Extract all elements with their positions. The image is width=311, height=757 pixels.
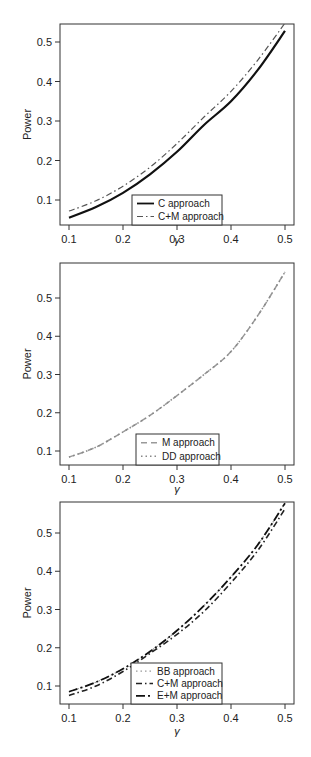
y-tick-label: 0.1: [37, 680, 52, 692]
y-tick-label: 0.4: [37, 76, 52, 88]
x-tick-label: 0.2: [115, 233, 130, 245]
y-axis: 0.10.20.30.40.5: [37, 36, 60, 206]
y-axis-label: Power: [21, 348, 33, 380]
y-tick-label: 0.2: [37, 642, 52, 654]
y-tick-label: 0.4: [37, 330, 52, 342]
chart-panel-1: 0.10.20.30.40.50.10.20.30.40.5γPowerC ap…: [0, 0, 311, 255]
y-tick-label: 0.5: [37, 292, 52, 304]
x-tick-label: 0.4: [223, 233, 238, 245]
power-chart-m-vs-dd: 0.10.20.30.40.50.10.20.30.40.5γPowerM ap…: [0, 255, 311, 500]
legend-entry: C approach: [158, 198, 210, 209]
x-axis: 0.10.20.30.40.5: [61, 704, 292, 724]
series-group: [69, 23, 285, 218]
legend: BB approachC+M approachE+M approach: [131, 663, 223, 704]
power-chart-c-vs-cm: 0.10.20.30.40.50.10.20.30.40.5γPowerC ap…: [0, 0, 311, 255]
legend-entry: C+M approach: [158, 211, 224, 222]
y-axis: 0.10.20.30.40.5: [37, 527, 60, 692]
y-tick-label: 0.4: [37, 565, 52, 577]
y-tick-label: 0.1: [37, 194, 52, 206]
x-tick-label: 0.1: [61, 233, 76, 245]
x-tick-label: 0.4: [223, 712, 238, 724]
y-tick-label: 0.2: [37, 155, 52, 167]
x-axis-label: γ: [174, 725, 181, 737]
x-tick-label: 0.5: [277, 712, 292, 724]
legend-entry: DD approach: [162, 451, 221, 462]
legend-entry: M approach: [162, 437, 215, 448]
power-chart-bb-cm-em: 0.10.20.30.40.50.10.20.30.40.5γPowerBB a…: [0, 500, 311, 757]
x-tick-label: 0.5: [277, 473, 292, 485]
y-axis-label: Power: [21, 587, 33, 619]
y-tick-label: 0.3: [37, 369, 52, 381]
y-tick-label: 0.1: [37, 445, 52, 457]
x-tick-label: 0.1: [61, 712, 76, 724]
x-tick-label: 0.3: [169, 712, 184, 724]
y-axis: 0.10.20.30.40.5: [37, 292, 60, 457]
y-axis-label: Power: [21, 109, 33, 141]
legend: C approachC+M approach: [132, 195, 224, 225]
series-line-c-approach: [69, 31, 285, 218]
x-axis: 0.10.20.30.40.5: [61, 465, 292, 485]
legend-entry: C+M approach: [157, 678, 223, 689]
legend: M approachDD approach: [136, 434, 221, 465]
series-line-dd-approach: [69, 272, 285, 457]
x-tick-label: 0.1: [61, 473, 76, 485]
x-tick-label: 0.2: [115, 473, 130, 485]
y-tick-label: 0.5: [37, 527, 52, 539]
y-tick-label: 0.3: [37, 604, 52, 616]
x-tick-label: 0.5: [277, 233, 292, 245]
series-group: [69, 272, 285, 457]
series-line-c-m-approach: [69, 23, 285, 211]
x-tick-label: 0.2: [115, 712, 130, 724]
chart-panel-2: 0.10.20.30.40.50.10.20.30.40.5γPowerM ap…: [0, 255, 311, 500]
y-tick-label: 0.2: [37, 407, 52, 419]
legend-entry: BB approach: [157, 666, 215, 677]
x-tick-label: 0.4: [223, 473, 238, 485]
series-line-m-approach: [69, 272, 285, 457]
y-tick-label: 0.3: [37, 115, 52, 127]
legend-entry: E+M approach: [157, 690, 222, 701]
y-tick-label: 0.5: [37, 36, 52, 48]
chart-panel-3: 0.10.20.30.40.50.10.20.30.40.5γPowerBB a…: [0, 500, 311, 757]
